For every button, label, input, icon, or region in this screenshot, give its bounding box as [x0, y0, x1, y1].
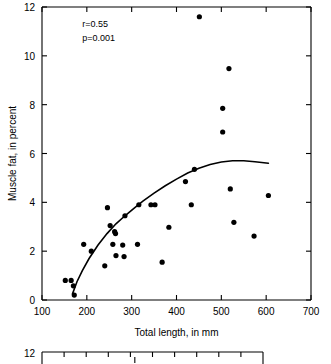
y-tick-label: 8 — [29, 100, 35, 111]
scatter-point — [251, 233, 256, 238]
y-tick-label: 4 — [29, 197, 35, 208]
x-tick-label: 400 — [168, 306, 185, 317]
scatter-point — [108, 223, 113, 228]
scatter-point — [71, 283, 76, 288]
y-axis-label: Muscle fat, in percent — [7, 106, 18, 201]
scatter-point — [110, 242, 115, 247]
x-tick-label: 300 — [123, 306, 140, 317]
annotation-text: r=0.55 — [82, 19, 108, 29]
x-axis-label: Total length, in mm — [135, 327, 219, 338]
scatter-point — [135, 242, 140, 247]
scatter-point — [72, 293, 77, 298]
scatter-point — [63, 278, 68, 283]
scatter-point — [197, 14, 202, 19]
scatter-point — [102, 263, 107, 268]
scatter-point — [120, 242, 125, 247]
second-chart-y-tick-label: 12 — [24, 348, 36, 359]
scatter-point — [89, 249, 94, 254]
scatter-points — [63, 14, 271, 298]
y-tick-label: 10 — [24, 51, 36, 62]
scatter-point — [160, 260, 165, 265]
scatter-point — [231, 220, 236, 225]
y-tick-label: 2 — [29, 246, 35, 257]
scatter-point — [166, 225, 171, 230]
y-axis-tick-labels: 024681012 — [24, 2, 36, 306]
scatter-plot-figure: 100200300400500600700 024681012 Total le… — [0, 0, 331, 364]
scatter-point — [113, 253, 118, 258]
scatter-point — [183, 179, 188, 184]
plot-svg: 100200300400500600700 024681012 Total le… — [0, 0, 331, 364]
x-axis-ticks — [42, 7, 311, 300]
stat-annotations: r=0.55p=0.001 — [82, 19, 115, 44]
y-tick-label: 12 — [24, 2, 36, 13]
annotation-text: p=0.001 — [82, 33, 115, 43]
x-tick-label: 100 — [34, 306, 51, 317]
x-axis-tick-labels: 100200300400500600700 — [34, 306, 320, 317]
x-tick-label: 200 — [78, 306, 95, 317]
y-tick-label: 6 — [29, 149, 35, 160]
plot-frame — [42, 7, 311, 300]
scatter-point — [228, 186, 233, 191]
scatter-point — [122, 213, 127, 218]
figure-root: 100200300400500600700 024681012 Total le… — [0, 0, 331, 364]
scatter-point — [121, 254, 126, 259]
x-tick-label: 600 — [258, 306, 275, 317]
scatter-point — [220, 129, 225, 134]
scatter-point — [105, 205, 110, 210]
scatter-point — [152, 202, 157, 207]
scatter-point — [69, 278, 74, 283]
scatter-point — [113, 231, 118, 236]
scatter-point — [192, 167, 197, 172]
scatter-point — [81, 242, 86, 247]
x-tick-label: 700 — [303, 306, 320, 317]
y-tick-label: 0 — [29, 295, 35, 306]
scatter-point — [220, 106, 225, 111]
scatter-point — [189, 202, 194, 207]
scatter-point — [136, 202, 141, 207]
second-chart-partial: 12 — [24, 348, 263, 364]
scatter-point — [266, 193, 271, 198]
x-tick-label: 500 — [213, 306, 230, 317]
y-axis-ticks — [42, 7, 311, 300]
scatter-point — [226, 66, 231, 71]
